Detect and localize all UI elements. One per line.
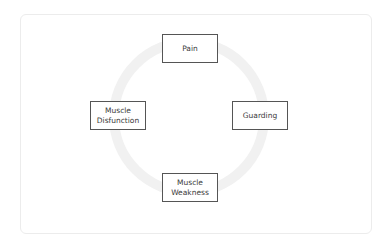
node-guarding-label: Guarding bbox=[243, 111, 277, 121]
node-guarding: Guarding bbox=[232, 101, 288, 130]
node-pain-label: Pain bbox=[182, 44, 198, 54]
node-muscle-weakness-line2: Weakness bbox=[171, 188, 209, 198]
node-muscle-weakness-line1: Muscle bbox=[171, 178, 209, 188]
node-muscle-disfunction-line2: Disfunction bbox=[97, 116, 139, 126]
node-muscle-disfunction: Muscle Disfunction bbox=[90, 101, 146, 130]
node-muscle-disfunction-line1: Muscle bbox=[97, 106, 139, 116]
node-pain: Pain bbox=[162, 34, 218, 63]
node-muscle-weakness: Muscle Weakness bbox=[162, 173, 218, 202]
